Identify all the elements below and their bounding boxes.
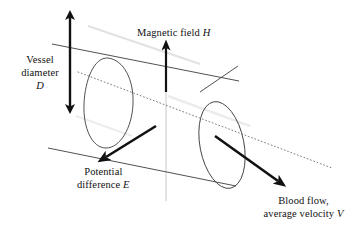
label-vessel-diameter-line2: diameter xyxy=(16,66,64,79)
label-magnetic-field-symbol: H xyxy=(203,27,211,38)
label-magnetic-field: Magnetic field H xyxy=(137,26,210,39)
cylinder-right-ellipse xyxy=(192,98,252,193)
label-potential-difference-line2: difference E xyxy=(77,178,130,191)
potential-difference-arrow xyxy=(106,126,156,157)
label-vessel-diameter-line1: Vessel xyxy=(16,53,64,66)
label-blood-flow-line2: average velocity V xyxy=(251,207,356,220)
blood-flow-arrow xyxy=(215,136,278,181)
label-vessel-diameter-symbol: D xyxy=(16,79,64,92)
ellipse-construction-line xyxy=(200,66,238,92)
blood-flowmeter-diagram: Vessel diameter D Magnetic field H Poten… xyxy=(0,0,359,232)
label-blood-flow-symbol: V xyxy=(337,208,344,219)
label-vessel-diameter: Vessel diameter D xyxy=(16,53,64,92)
label-potential-difference-word: difference xyxy=(77,179,120,190)
dotted-center-axis xyxy=(78,72,332,168)
cylinder-top-edge xyxy=(52,44,239,81)
label-blood-flow: Blood flow, average velocity V xyxy=(251,194,356,220)
label-potential-difference-symbol: E xyxy=(123,179,130,190)
label-magnetic-field-text: Magnetic field xyxy=(137,27,200,38)
label-blood-flow-line1: Blood flow, xyxy=(251,194,356,207)
label-potential-difference: Potential difference E xyxy=(77,165,130,191)
label-blood-flow-word: average velocity xyxy=(264,208,335,219)
label-potential-difference-line1: Potential xyxy=(77,165,130,178)
